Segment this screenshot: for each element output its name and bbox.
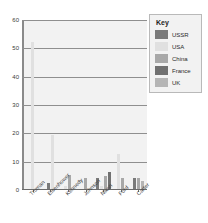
bar	[117, 154, 120, 189]
bar-group	[77, 20, 95, 189]
bar-group	[94, 20, 112, 189]
legend-swatch	[155, 42, 168, 51]
legend-item[interactable]: UK	[155, 78, 197, 87]
y-axis: 0102030405060	[0, 20, 19, 190]
bar-groups	[24, 20, 147, 189]
bar	[31, 42, 34, 189]
legend-swatch	[155, 30, 168, 39]
legend: Key USSRUSAChinaFranceUK	[149, 14, 202, 93]
y-tick-label: 60	[12, 17, 19, 23]
plot-area	[22, 20, 147, 190]
y-tick-label: 20	[12, 130, 19, 136]
y-tick-label: 0	[16, 187, 19, 193]
bar-group	[59, 20, 77, 189]
x-axis-labels: TrumanEisenhowerKennedyJohnsonNixonFordC…	[22, 191, 147, 223]
legend-item[interactable]: USA	[155, 42, 197, 51]
legend-swatch	[155, 54, 168, 63]
legend-item[interactable]: France	[155, 66, 197, 75]
legend-swatch	[155, 78, 168, 87]
legend-item[interactable]: China	[155, 54, 197, 63]
bar-group	[42, 20, 60, 189]
legend-items: USSRUSAChinaFranceUK	[155, 30, 197, 87]
legend-item[interactable]: USSR	[155, 30, 197, 39]
legend-swatch	[155, 66, 168, 75]
bar	[51, 135, 54, 189]
bar-group	[112, 20, 130, 189]
y-tick-label: 40	[12, 74, 19, 80]
bar	[133, 178, 136, 189]
legend-label: China	[172, 56, 188, 62]
legend-label: France	[172, 68, 191, 74]
legend-label: USSR	[172, 32, 189, 38]
y-tick-label: 50	[12, 45, 19, 51]
legend-title: Key	[156, 19, 197, 26]
bar-group	[129, 20, 147, 189]
y-tick-label: 30	[12, 102, 19, 108]
legend-label: USA	[172, 44, 184, 50]
y-tick-label: 10	[12, 159, 19, 165]
chart-root: 0102030405060 TrumanEisenhowerKennedyJoh…	[0, 0, 208, 223]
legend-label: UK	[172, 80, 180, 86]
bar-group	[24, 20, 42, 189]
